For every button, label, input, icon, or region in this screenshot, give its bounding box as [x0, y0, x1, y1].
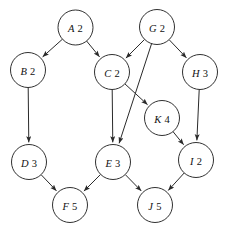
node-value-k: 4	[164, 113, 170, 124]
nodes-layer: A2G2B2C2H3K4D3E3I2F5J5	[11, 10, 218, 223]
node-circle-c[interactable]	[95, 55, 130, 90]
node-letter-g: G	[149, 22, 157, 33]
node-circle-g[interactable]	[140, 10, 175, 45]
edge-c-to-e	[112, 90, 113, 143]
node-value-i: 2	[197, 155, 202, 166]
node-value-b: 2	[30, 65, 35, 76]
node-circle-d[interactable]	[12, 145, 47, 180]
node-letter-b: B	[20, 65, 27, 76]
node-value-g: 2	[160, 22, 165, 33]
graph-diagram: A2G2B2C2H3K4D3E3I2F5J5	[0, 0, 232, 236]
node-circle-h[interactable]	[183, 55, 218, 90]
edge-e-to-j	[125, 175, 141, 191]
node-c[interactable]: C2	[95, 55, 130, 90]
node-circle-a[interactable]	[58, 10, 93, 45]
node-e[interactable]: E3	[96, 145, 131, 180]
edge-c-to-k	[125, 84, 148, 105]
edge-e-to-f	[84, 174, 101, 191]
node-b[interactable]: B2	[11, 53, 46, 88]
node-h[interactable]: H3	[183, 55, 218, 90]
node-circle-k[interactable]	[145, 101, 180, 136]
node-circle-e[interactable]	[96, 145, 131, 180]
node-letter-k: K	[153, 113, 162, 124]
node-f[interactable]: F5	[53, 188, 88, 223]
node-i[interactable]: I2	[179, 143, 214, 178]
edge-b-to-d	[28, 88, 29, 143]
node-circle-j[interactable]	[138, 188, 173, 223]
node-letter-h: H	[191, 67, 201, 78]
edge-h-to-i	[197, 89, 199, 140]
node-d[interactable]: D3	[12, 145, 47, 180]
node-circle-f[interactable]	[53, 188, 88, 223]
node-value-a: 2	[78, 23, 83, 34]
edge-d-to-f	[41, 175, 56, 191]
node-j[interactable]: J5	[138, 188, 173, 223]
edge-g-to-c	[126, 39, 145, 58]
node-a[interactable]: A2	[58, 10, 93, 45]
node-label-d: D3	[20, 157, 37, 168]
edge-a-to-b	[43, 39, 63, 57]
node-letter-a: A	[67, 23, 75, 34]
node-value-c: 2	[114, 67, 119, 78]
node-letter-d: D	[20, 157, 29, 168]
node-label-h: H3	[191, 67, 208, 78]
node-value-j: 5	[156, 200, 161, 211]
node-g[interactable]: G2	[140, 10, 175, 45]
edge-g-to-h	[169, 40, 186, 58]
node-circle-b[interactable]	[11, 53, 46, 88]
node-letter-i: I	[189, 155, 194, 166]
edge-k-to-i	[173, 132, 184, 145]
node-value-d: 3	[32, 157, 37, 168]
node-value-h: 3	[203, 67, 208, 78]
node-letter-f: F	[61, 200, 69, 211]
node-letter-e: E	[104, 157, 112, 168]
node-k[interactable]: K4	[145, 101, 180, 136]
edge-i-to-j	[168, 173, 184, 191]
node-letter-c: C	[104, 67, 112, 78]
edge-a-to-c	[87, 41, 100, 57]
node-value-e: 3	[115, 157, 120, 168]
node-value-f: 5	[72, 200, 77, 211]
